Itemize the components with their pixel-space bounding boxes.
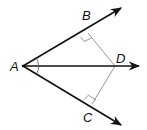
label-D: D [116,51,125,66]
angle-arc-DAC [37,66,39,74]
label-C: C [83,110,93,125]
right-angle-mark-B [81,37,92,42]
segment-DC [92,66,115,104]
label-A: A [9,59,19,74]
ray-AB [23,8,121,66]
point-A-dot [22,65,25,68]
segment-DB [88,33,115,66]
angle-bisector-diagram: A B D C [0,0,147,130]
ray-AC [23,66,121,125]
right-angle-mark-C [84,95,96,100]
angle-arc-BAD [37,58,39,66]
label-B: B [82,8,91,23]
